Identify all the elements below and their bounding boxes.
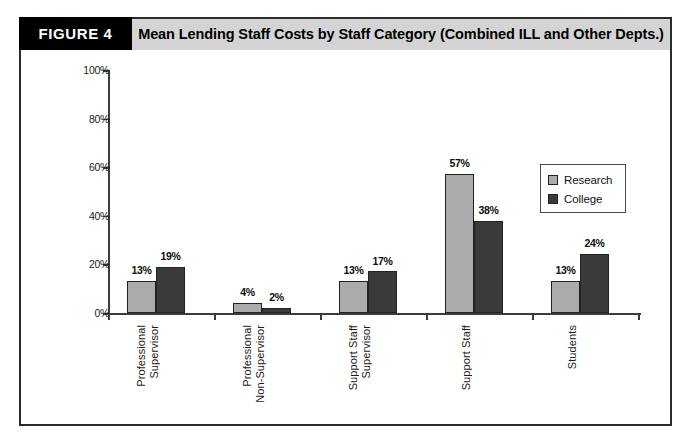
legend-label-college: College: [564, 193, 602, 205]
legend-label-research: Research: [564, 174, 612, 186]
legend-entry-research: Research: [548, 170, 625, 189]
legend-swatch-research-icon: [548, 175, 558, 185]
legend-entry-college: College: [548, 189, 625, 208]
figure-header: FIGURE 4 Mean Lending Staff Costs by Sta…: [19, 17, 672, 50]
figure-number-badge: FIGURE 4: [19, 17, 132, 50]
figure-title: Mean Lending Staff Costs by Staff Catego…: [132, 17, 672, 50]
chart-legend: Research College: [540, 164, 626, 213]
legend-swatch-college-icon: [548, 194, 558, 204]
figure-frame: [19, 17, 672, 426]
